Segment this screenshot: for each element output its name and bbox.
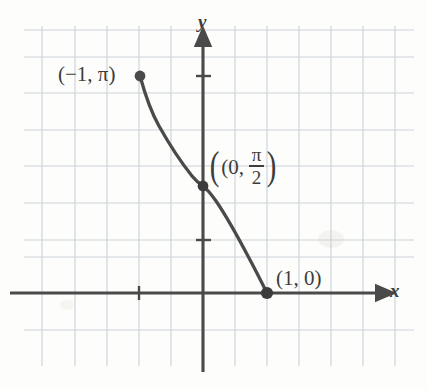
point-label-0-pi-over-2: ( (0, π 2 ) <box>208 145 278 187</box>
coordinate-plane-svg <box>0 0 427 390</box>
x-axis-label: x <box>390 281 400 300</box>
paren-open-glyph: ( <box>210 150 220 183</box>
y-axis-label: y <box>198 12 206 31</box>
point-0-pi-over-2[interactable] <box>198 181 209 192</box>
point-neg1-pi[interactable] <box>135 71 146 82</box>
point-1-0[interactable] <box>261 287 273 299</box>
paren-close-glyph: ) <box>267 150 277 183</box>
point-label-lead-text: (0, <box>220 157 247 178</box>
fraction-pi-over-2: π 2 <box>247 145 266 187</box>
arccos-graph-figure: (−1, π) ( (0, π 2 ) (1, 0) y x <box>0 0 427 390</box>
fraction-numerator: π <box>250 145 264 165</box>
fraction-denominator: 2 <box>250 167 264 187</box>
point-label-neg1-pi: (−1, π) <box>58 64 115 85</box>
point-label-1-0: (1, 0) <box>276 268 322 289</box>
